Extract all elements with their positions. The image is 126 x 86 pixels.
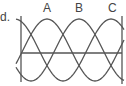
wave-a xyxy=(16,19,124,81)
three-phase-waveform xyxy=(0,0,126,86)
